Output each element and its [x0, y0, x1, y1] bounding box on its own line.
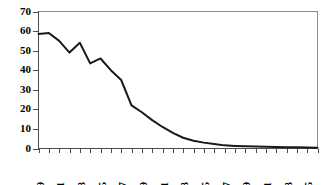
x-tick-label: 1993 [283, 182, 294, 185]
x-tick-label: 1985 [200, 182, 211, 185]
y-tick-group [33, 13, 39, 150]
y-tick-label: 20 [20, 102, 32, 114]
x-tick-label: 1995 [303, 182, 314, 185]
y-tick-label: 70 [20, 5, 32, 17]
y-tick-label: 60 [20, 24, 32, 36]
x-tick-label: 1991 [262, 182, 273, 185]
x-tick-label: 1971 [55, 182, 66, 185]
series-line-1 [39, 33, 318, 148]
y-tick-label: 50 [20, 44, 32, 56]
y-tick-label: 30 [20, 83, 32, 95]
y-tick-label: 0 [26, 142, 32, 154]
x-tick-label: 1989 [241, 182, 252, 185]
x-tick-label-group: 1969197119731975197719791981198319851987… [35, 182, 314, 185]
y-tick-label: 10 [20, 122, 32, 134]
x-tick-group [40, 149, 319, 154]
line-chart: 010203040506070 196919711973197519771979… [0, 0, 335, 185]
x-tick-label: 1975 [97, 182, 108, 185]
x-tick-label: 1977 [117, 182, 128, 185]
y-tick-label-group: 010203040506070 [20, 5, 32, 154]
x-tick-label: 1983 [179, 182, 190, 185]
chart-figure: 010203040506070 196919711973197519771979… [0, 0, 335, 185]
x-tick-label: 1981 [159, 182, 170, 185]
x-tick-label: 1987 [221, 182, 232, 185]
x-tick-label: 1969 [35, 182, 46, 185]
plot-frame [38, 12, 318, 149]
x-tick-label: 1973 [76, 182, 87, 185]
y-tick-label: 40 [20, 63, 32, 75]
x-tick-label: 1979 [138, 182, 149, 185]
